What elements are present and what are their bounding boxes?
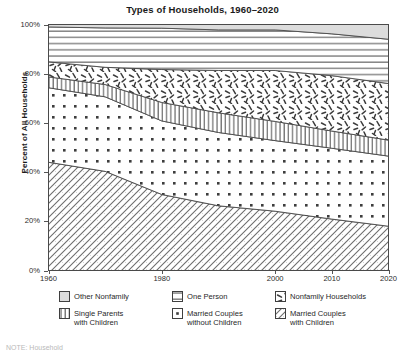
y-tick-label: 60% — [6, 118, 40, 127]
chart-title: Types of Households, 1960–2020 — [0, 4, 405, 15]
legend-label: Married Couples with Children — [290, 308, 346, 327]
solid-gray-swatch-icon — [59, 291, 70, 302]
x-tick-label: 1980 — [142, 274, 182, 283]
legend-label: Married Couples without Children — [187, 308, 243, 327]
y-tick-label: 40% — [6, 167, 40, 176]
y-tick-label: 80% — [6, 69, 40, 78]
x-tick-label: 2010 — [312, 274, 352, 283]
x-tick-label: 2000 — [255, 274, 295, 283]
legend-label: One Person — [187, 291, 228, 301]
legend-label: Other Nonfamily — [74, 291, 129, 301]
stacked-area-plot — [48, 24, 389, 271]
dots-swatch-icon — [172, 308, 183, 319]
horizontal-lines-swatch-icon — [172, 291, 183, 302]
legend-row-1: Other Nonfamily One Person Nonfamily Hou… — [0, 291, 405, 302]
squiggle-swatch-icon — [275, 291, 286, 302]
legend-row-2: Single Parents with Children Married Cou… — [0, 308, 405, 327]
legend-item-nonfamily-households[interactable]: Nonfamily Households — [275, 291, 366, 302]
legend-label: Nonfamily Households — [290, 291, 366, 301]
x-tick-label: 2020 — [369, 274, 405, 283]
legend-item-married-with-children[interactable]: Married Couples with Children — [275, 308, 346, 327]
chart-legend: Other Nonfamily One Person Nonfamily Hou… — [0, 291, 405, 327]
y-tick-label: 20% — [6, 216, 40, 225]
footer-note: NOTE: Household — [6, 344, 63, 351]
legend-label: Single Parents with Children — [74, 308, 123, 327]
legend-item-one-person[interactable]: One Person — [172, 291, 275, 302]
legend-item-married-without-children[interactable]: Married Couples without Children — [172, 308, 275, 327]
diagonal-hatch-swatch-icon — [275, 308, 286, 319]
chart-root: Types of Households, 1960–2020 Percent o… — [0, 0, 405, 352]
y-tick-label: 100% — [6, 20, 40, 29]
legend-item-single-parents[interactable]: Single Parents with Children — [59, 308, 172, 327]
x-tick-label: 1960 — [29, 274, 69, 283]
legend-item-other-nonfamily[interactable]: Other Nonfamily — [59, 291, 172, 302]
vertical-lines-swatch-icon — [59, 308, 70, 319]
